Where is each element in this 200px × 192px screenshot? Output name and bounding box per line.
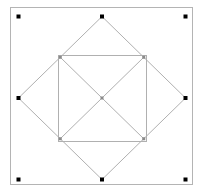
grid-dot-bottom-left	[17, 178, 21, 182]
grid-dot-bottom-right	[184, 178, 188, 182]
outer-frame	[11, 8, 193, 185]
grid-dot-bottom-center	[100, 178, 104, 182]
marker-inner-top-left	[59, 56, 62, 59]
grid-dot-top-center	[100, 15, 104, 19]
marker-inner-top-right	[142, 56, 145, 59]
grid-dot-middle-left	[17, 96, 21, 100]
marker-center	[101, 97, 104, 100]
grid-dot-middle-right	[184, 96, 188, 100]
grid-dot-top-right	[184, 15, 188, 19]
marker-inner-bottom-left	[59, 137, 62, 140]
grid-dot-top-left	[17, 15, 21, 19]
marker-inner-bottom-right	[142, 137, 145, 140]
geometry-diagram	[0, 0, 200, 192]
